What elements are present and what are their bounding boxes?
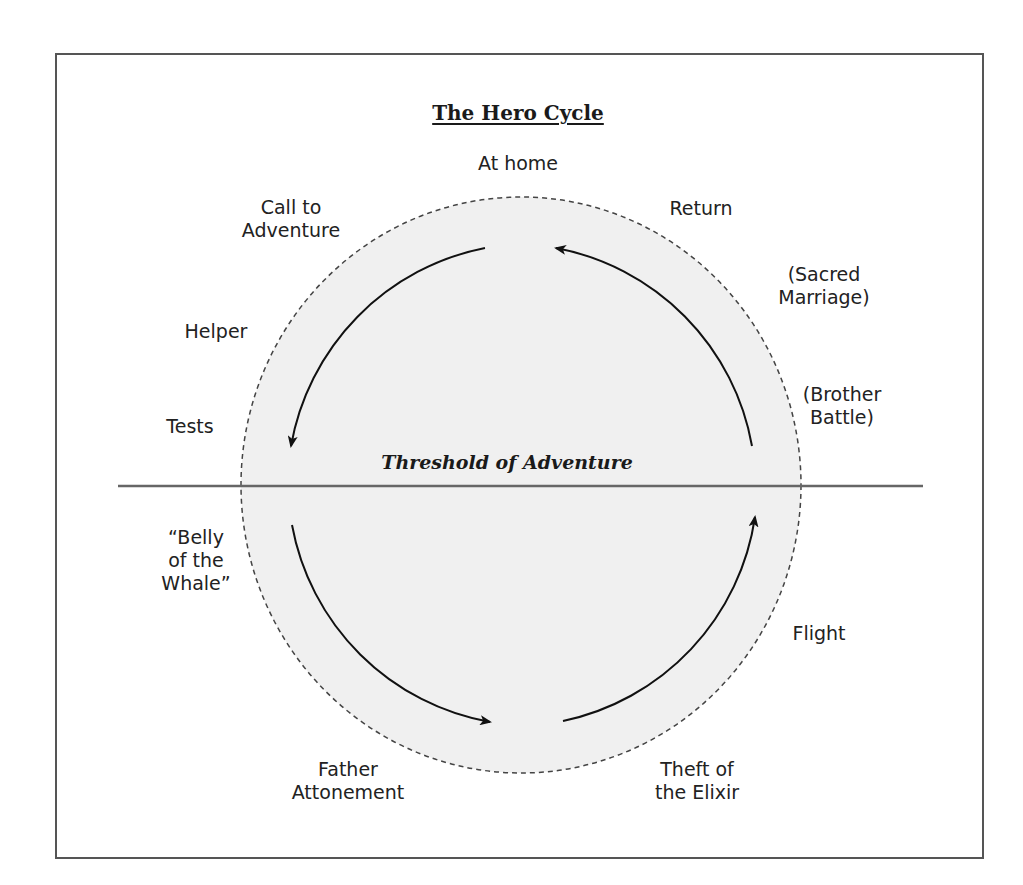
stage-call-to-adventure: Call to Adventure bbox=[242, 196, 340, 242]
stage-belly-of-the-whale: “Belly of the Whale” bbox=[161, 526, 230, 595]
stage-tests: Tests bbox=[166, 415, 213, 438]
diagram-title: The Hero Cycle bbox=[432, 101, 604, 125]
hero-cycle-diagram bbox=[0, 0, 1023, 885]
stage-at-home: At home bbox=[478, 152, 558, 175]
stage-theft-of-the-elixir: Theft of the Elixir bbox=[655, 758, 739, 804]
stage-helper: Helper bbox=[185, 320, 248, 343]
stage-sacred-marriage: (Sacred Marriage) bbox=[778, 263, 869, 309]
stage-flight: Flight bbox=[792, 622, 845, 645]
stage-brother-battle: (Brother Battle) bbox=[803, 383, 881, 429]
stage-father-attonement: Father Attonement bbox=[292, 758, 405, 804]
stage-return: Return bbox=[669, 197, 732, 220]
threshold-label: Threshold of Adventure bbox=[381, 451, 632, 473]
